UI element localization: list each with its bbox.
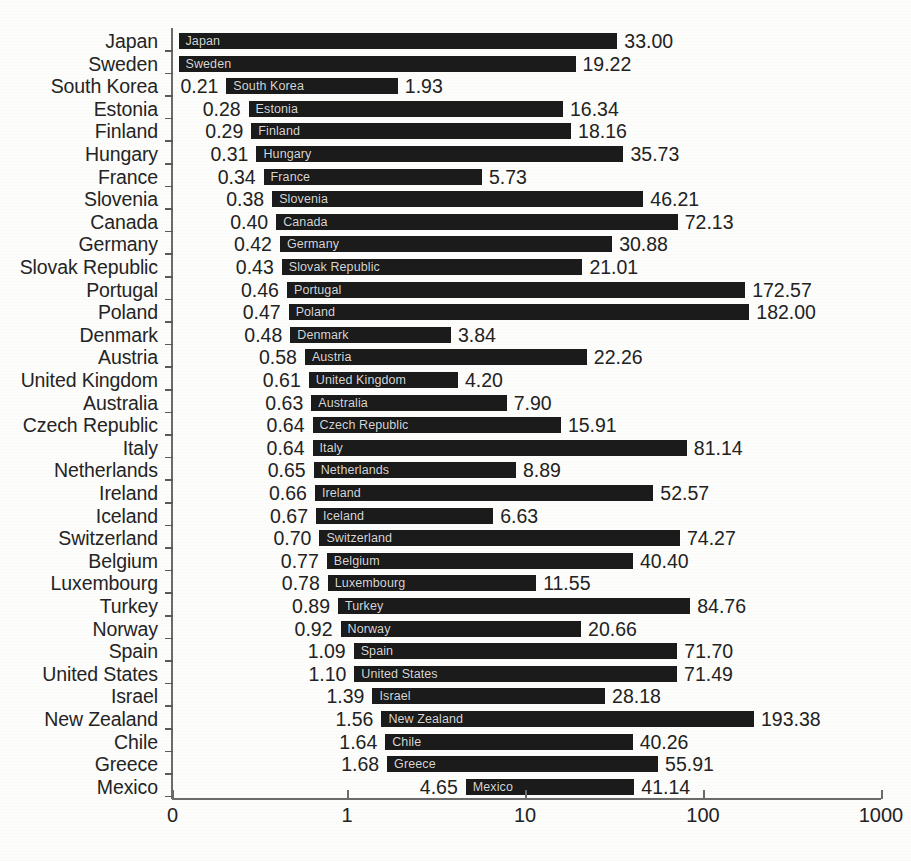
chart-row: SloveniaSlovenia0.3846.21 xyxy=(0,188,911,211)
chart-row: IcelandIceland0.676.63 xyxy=(0,505,911,528)
bar-inline-label: Australia xyxy=(318,395,368,411)
chart-row: HungaryHungary0.3135.73 xyxy=(0,143,911,166)
y-axis-tick xyxy=(165,592,173,594)
category-label: Italy xyxy=(0,437,158,460)
chart-row: New ZealandNew Zealand1.56193.38 xyxy=(0,708,911,731)
min-value-label: 0.34 xyxy=(160,166,256,189)
range-bar: Belgium xyxy=(327,553,633,569)
category-label: Slovak Republic xyxy=(0,256,158,279)
range-bar: Estonia xyxy=(249,101,563,117)
range-bar: Finland xyxy=(251,123,571,139)
range-bar-chart: JapanJapan33.00SwedenSweden19.22South Ko… xyxy=(0,0,911,861)
bar-inline-label: Switzerland xyxy=(326,530,392,546)
category-label: Greece xyxy=(0,753,158,776)
bar-inline-label: Greece xyxy=(394,756,436,772)
chart-row: GreeceGreece1.6855.91 xyxy=(0,753,911,776)
max-value-label: 84.76 xyxy=(697,595,746,618)
max-value-label: 52.57 xyxy=(660,482,709,505)
max-value-label: 15.91 xyxy=(568,414,617,437)
max-value-label: 21.01 xyxy=(589,256,638,279)
max-value-label: 4.20 xyxy=(465,369,503,392)
y-axis-tick xyxy=(165,660,173,662)
max-value-label: 40.40 xyxy=(640,550,689,573)
y-axis-tick xyxy=(165,434,173,436)
range-bar: Austria xyxy=(305,349,587,365)
x-axis-tick xyxy=(703,790,705,799)
range-bar: Ireland xyxy=(315,485,653,501)
max-value-label: 18.16 xyxy=(578,120,627,143)
bar-inline-label: Belgium xyxy=(334,553,380,569)
chart-row: MexicoMexico4.6541.14 xyxy=(0,776,911,799)
min-value-label: 0.61 xyxy=(205,369,301,392)
bar-inline-label: New Zealand xyxy=(388,711,463,727)
bar-inline-label: Netherlands xyxy=(321,462,390,478)
max-value-label: 19.22 xyxy=(583,53,632,76)
category-label: Poland xyxy=(0,301,158,324)
range-bar: Germany xyxy=(280,236,612,252)
min-value-label: 0.63 xyxy=(207,392,303,415)
x-axis-tick-label: 0 xyxy=(167,803,178,827)
range-bar: Norway xyxy=(341,621,582,637)
bar-inline-label: Poland xyxy=(296,304,336,320)
y-axis-tick xyxy=(165,751,173,753)
max-value-label: 16.34 xyxy=(570,98,619,121)
chart-row: Slovak RepublicSlovak Republic0.4321.01 xyxy=(0,256,911,279)
bar-inline-label: United States xyxy=(361,666,437,682)
max-value-label: 1.93 xyxy=(405,75,443,98)
bar-inline-label: United Kingdom xyxy=(316,372,406,388)
range-bar: Japan xyxy=(179,33,618,49)
chart-row: DenmarkDenmark0.483.84 xyxy=(0,324,911,347)
min-value-label: 0.92 xyxy=(237,618,333,641)
min-value-label: 0.28 xyxy=(145,98,241,121)
bar-inline-label: Israel xyxy=(379,688,410,704)
category-label: Portugal xyxy=(0,279,158,302)
chart-row: IsraelIsrael1.3928.18 xyxy=(0,685,911,708)
y-axis-tick xyxy=(165,705,173,707)
y-axis-tick xyxy=(165,389,173,391)
y-axis-tick xyxy=(165,50,173,52)
y-axis-tick xyxy=(165,479,173,481)
chart-row: PortugalPortugal0.46172.57 xyxy=(0,279,911,302)
chart-row: SwedenSweden19.22 xyxy=(0,53,911,76)
max-value-label: 72.13 xyxy=(685,211,734,234)
x-axis-tick xyxy=(525,790,527,799)
category-label: France xyxy=(0,166,158,189)
chart-row: IrelandIreland0.6652.57 xyxy=(0,482,911,505)
y-axis-tick xyxy=(165,73,173,75)
category-label: Australia xyxy=(0,392,158,415)
range-bar: Canada xyxy=(276,214,678,230)
bar-inline-label: Iceland xyxy=(323,508,364,524)
max-value-label: 46.21 xyxy=(650,188,699,211)
range-bar: United States xyxy=(354,666,677,682)
chart-row: SpainSpain1.0971.70 xyxy=(0,640,911,663)
category-label: Japan xyxy=(0,30,158,53)
bar-inline-label: Slovenia xyxy=(279,191,328,207)
max-value-label: 33.00 xyxy=(624,30,673,53)
max-value-label: 55.91 xyxy=(665,753,714,776)
y-axis-tick xyxy=(165,299,173,301)
max-value-label: 6.63 xyxy=(500,505,538,528)
category-label: Estonia xyxy=(0,98,158,121)
chart-row: Czech RepublicCzech Republic0.6415.91 xyxy=(0,414,911,437)
bar-inline-label: Norway xyxy=(348,621,391,637)
min-value-label: 0.48 xyxy=(186,324,282,347)
max-value-label: 193.38 xyxy=(761,708,821,731)
chart-row: FranceFrance0.345.73 xyxy=(0,166,911,189)
bar-inline-label: Germany xyxy=(287,236,339,252)
y-axis-tick xyxy=(165,412,173,414)
bar-inline-label: France xyxy=(271,169,311,185)
range-bar: Hungary xyxy=(256,146,623,162)
category-label: United States xyxy=(0,663,158,686)
y-axis-tick xyxy=(165,344,173,346)
chart-row: EstoniaEstonia0.2816.34 xyxy=(0,98,911,121)
max-value-label: 8.89 xyxy=(523,459,561,482)
y-axis-tick xyxy=(165,502,173,504)
min-value-label: 0.47 xyxy=(185,301,281,324)
range-bar: Switzerland xyxy=(319,530,680,546)
min-value-label: 0.38 xyxy=(168,188,264,211)
range-bar: Australia xyxy=(311,395,506,411)
range-bar: Turkey xyxy=(338,598,690,614)
y-axis-tick xyxy=(165,773,173,775)
chart-row: United KingdomUnited Kingdom0.614.20 xyxy=(0,369,911,392)
range-bar: Sweden xyxy=(179,56,576,72)
